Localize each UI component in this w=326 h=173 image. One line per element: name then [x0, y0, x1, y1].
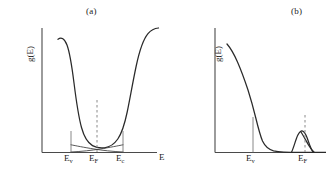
panel-a-tick-ev-base: E [64, 153, 70, 163]
panel-a-tick-ec-sub: c [122, 157, 125, 164]
panel-b-tick-ev-sub: v [252, 157, 255, 164]
panel-b-dos-curve [227, 44, 326, 152]
panel-a-tick-ev-sub: v [70, 157, 73, 164]
panel-a-tick-ec: Ec [116, 153, 124, 163]
panel-a-tick-ef-sub: F [95, 157, 99, 164]
panel-a-tick-ef-base: E [89, 153, 95, 163]
panel-a-plot [0, 0, 163, 173]
panel-a: (a) g(E) E Ev EF Ec [0, 0, 163, 173]
panel-b-tick-ev-base: E [246, 153, 252, 163]
panel-a-tick-ec-base: E [116, 153, 122, 163]
panel-b-tick-ef-base: E [298, 153, 304, 163]
panel-b: (b) g(E) Ev EF [163, 0, 326, 173]
panel-b-tick-ev: Ev [246, 153, 255, 163]
panel-b-tick-ef: EF [298, 153, 307, 163]
panel-b-defect-crossing-tail [301, 132, 314, 152]
panel-a-tick-ev: Ev [64, 153, 73, 163]
panel-a-dos-curve [58, 28, 159, 148]
panel-b-plot [163, 0, 326, 173]
panel-b-tick-ef-sub: F [304, 157, 308, 164]
figure-root: (a) g(E) E Ev EF Ec [0, 0, 326, 173]
panel-a-tick-ef: EF [89, 153, 98, 163]
